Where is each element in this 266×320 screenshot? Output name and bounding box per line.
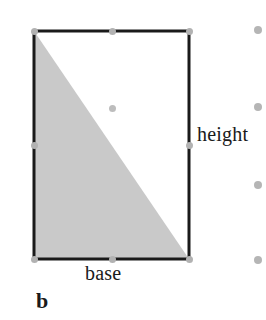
- handle-center[interactable]: [109, 105, 116, 112]
- margin-dot-1: [254, 26, 262, 34]
- handle-top-right[interactable]: [186, 28, 193, 35]
- base-label: base: [85, 262, 121, 285]
- shaded-triangle: [34, 31, 189, 259]
- handle-top-left[interactable]: [31, 28, 38, 35]
- handle-top-center[interactable]: [109, 28, 116, 35]
- margin-dot-3: [254, 181, 262, 189]
- handle-bottom-right[interactable]: [186, 256, 193, 263]
- geometry-diagram: [0, 0, 266, 320]
- handle-middle-right[interactable]: [186, 142, 193, 149]
- handle-bottom-left[interactable]: [31, 256, 38, 263]
- panel-letter-label: b: [36, 288, 48, 314]
- height-label: height: [197, 123, 248, 146]
- margin-dot-2: [254, 103, 262, 111]
- handle-middle-left[interactable]: [31, 142, 38, 149]
- margin-dot-4: [254, 256, 262, 264]
- figure-panel-b: height base b: [0, 0, 266, 320]
